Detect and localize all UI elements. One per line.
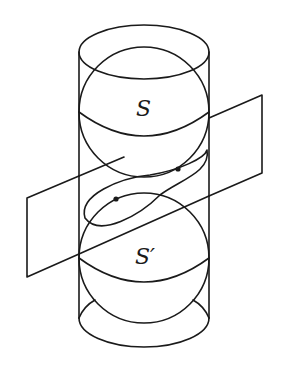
cylinder-bottom-back-right bbox=[193, 300, 209, 318]
cutting-plane-top-edge bbox=[209, 95, 262, 196]
dandelin-spheres-figure bbox=[0, 0, 288, 376]
cylinder-top-ellipse bbox=[79, 25, 209, 79]
cylinder-bottom-back-left bbox=[79, 300, 95, 318]
cutting-plane-left bbox=[27, 176, 79, 277]
label-lower-sphere: S′ bbox=[135, 244, 155, 269]
cutting-plane-inner-top bbox=[79, 157, 124, 176]
label-upper-sphere: S bbox=[136, 96, 151, 121]
focus-point-lower bbox=[113, 196, 118, 201]
focus-point-upper bbox=[175, 166, 180, 171]
